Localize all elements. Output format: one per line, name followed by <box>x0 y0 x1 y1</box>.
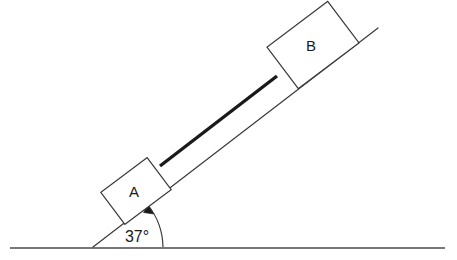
block-a-label: A <box>129 183 139 200</box>
diagram-canvas: 37° A B <box>0 0 457 260</box>
block-b-group: B <box>267 1 359 88</box>
inclined-plane-diagram: 37° A B <box>0 0 457 260</box>
block-a-group: A <box>101 158 171 225</box>
block-b-label: B <box>306 37 316 54</box>
angle-label: 37° <box>125 228 149 245</box>
connecting-rod <box>160 76 277 166</box>
